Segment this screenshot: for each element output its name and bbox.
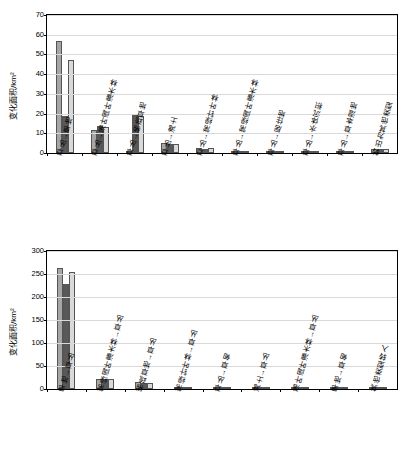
y-axis-tick-label: 150	[31, 316, 44, 324]
top-y-axis-title: 变化面积/km²	[10, 72, 18, 120]
gridline	[47, 74, 397, 75]
bar	[208, 148, 214, 153]
top-x-axis-labels: 草丛→旱地草丛→落叶阔叶灌木林草丛→稀疏草地草丛→滩土草丛→常绿针叶林草丛→常绿…	[46, 155, 398, 156]
x-axis-label: 常绿阔叶灌木林→草丛	[85, 391, 124, 392]
gridline	[47, 251, 397, 252]
bottom-y-axis-title: 变化面积/km²	[10, 308, 18, 356]
y-axis-tick-label: 30	[36, 90, 44, 98]
bar	[147, 383, 153, 389]
y-axis-tick-mark	[44, 343, 47, 344]
x-axis-label: 草丛→草甸	[202, 391, 241, 392]
x-axis-label: 草丛→落叶阔叶灌木林	[81, 155, 116, 156]
y-axis-tick-mark	[44, 94, 47, 95]
y-axis-tick-mark	[44, 153, 47, 154]
y-axis-tick-label: 50	[36, 51, 44, 59]
y-axis-tick-mark	[44, 251, 47, 252]
bar	[348, 151, 354, 153]
bar	[225, 387, 231, 389]
bar	[173, 144, 179, 153]
y-axis-tick-mark	[44, 297, 47, 298]
y-axis-tick-mark	[44, 274, 47, 275]
bar	[186, 387, 192, 389]
y-axis-tick-mark	[44, 133, 47, 134]
y-axis-tick-mark	[44, 54, 47, 55]
x-axis-label: 草丛→滩土	[152, 155, 187, 156]
bar	[342, 387, 348, 389]
x-axis-label: 草丛→常绿阔叶灌木林	[222, 155, 257, 156]
bottom-bar-chart: 变化面积/km² 1985—2000年 2000—2013年 1985—2013…	[0, 236, 419, 472]
y-axis-tick-mark	[44, 74, 47, 75]
x-axis-label: 草丛→水体沉积	[292, 155, 327, 156]
gridline	[47, 114, 397, 115]
gridline	[47, 54, 397, 55]
y-axis-tick-label: 40	[36, 70, 44, 78]
gridline	[47, 320, 397, 321]
y-axis-tick-mark	[44, 15, 47, 16]
gridline	[47, 274, 397, 275]
y-axis-tick-mark	[44, 320, 47, 321]
bar	[264, 387, 270, 389]
y-axis-tick-label: 100	[31, 339, 44, 347]
gridline	[47, 35, 397, 36]
x-axis-label: 草丛→居住地	[257, 155, 292, 156]
bottom-x-axis-labels: 旱地→草丛常绿阔叶灌木林→草丛稀疏草地→草丛常绿针叶林→草丛草丛→草甸滩土→草丛…	[46, 391, 398, 392]
y-axis-tick-label: 50	[36, 362, 44, 370]
x-axis-label: 其他类型转入	[359, 391, 398, 392]
gridline	[47, 297, 397, 298]
bar	[278, 151, 284, 153]
bar	[381, 387, 387, 389]
bar	[303, 387, 309, 389]
y-axis-tick-label: 60	[36, 31, 44, 39]
x-axis-label: 落叶阔叶灌木林→草丛	[281, 391, 320, 392]
y-axis-tick-label: 250	[31, 270, 44, 278]
y-axis-tick-label: 200	[31, 293, 44, 301]
figure-page: 变化面积/km² 1985—2000年 2000—2013年 1985—2013…	[0, 0, 419, 472]
bar	[383, 149, 389, 153]
y-axis-tick-label: 300	[31, 247, 44, 255]
x-axis-label: 草丛→旱地	[46, 155, 81, 156]
y-axis-tick-mark	[44, 35, 47, 36]
gridline	[47, 94, 397, 95]
x-axis-label: 转出为其他类型	[363, 155, 398, 156]
y-axis-tick-mark	[44, 366, 47, 367]
x-axis-label: 稀疏草地→草丛	[124, 391, 163, 392]
x-axis-label: 旱地→草甸	[320, 391, 359, 392]
x-axis-label: 草丛→常绿针叶林	[187, 155, 222, 156]
x-axis-label: 常绿针叶林→草丛	[163, 391, 202, 392]
x-axis-label: 旱地→草丛	[46, 391, 85, 392]
x-axis-label: 滩土→草丛	[242, 391, 281, 392]
x-axis-label: 草丛→草本湿地	[328, 155, 363, 156]
y-axis-tick-label: 10	[36, 130, 44, 138]
bar	[313, 151, 319, 153]
gridline	[47, 343, 397, 344]
x-axis-label: 草丛→稀疏草地	[116, 155, 151, 156]
y-axis-tick-mark	[44, 114, 47, 115]
gridline	[47, 15, 397, 16]
y-axis-tick-mark	[44, 389, 47, 390]
y-axis-tick-label: 70	[36, 11, 44, 19]
y-axis-tick-label: 20	[36, 110, 44, 118]
bar	[243, 151, 249, 153]
top-bar-chart: 变化面积/km² 1985—2000年 2000—2013年 1985—2013…	[0, 0, 419, 236]
bar	[108, 379, 114, 389]
